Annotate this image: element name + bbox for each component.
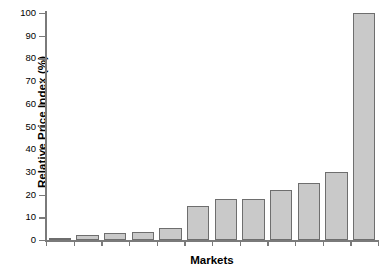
y-tick-mark (39, 13, 45, 14)
y-tick-label: 50 (6, 121, 36, 132)
y-tick-label: 70 (6, 75, 36, 86)
y-tick-mark (39, 195, 45, 196)
y-tick-mark (39, 127, 45, 128)
x-tick-mark (323, 241, 324, 246)
x-tick-mark (240, 241, 241, 246)
x-tick-mark (212, 241, 213, 246)
x-axis-title: Markets (46, 254, 378, 266)
x-tick-mark (101, 241, 102, 246)
y-tick-label: 40 (6, 143, 36, 154)
x-tick-mark (378, 241, 379, 246)
x-tick-mark (350, 241, 351, 246)
bar (215, 199, 237, 240)
y-tick-mark (39, 81, 45, 82)
x-tick-mark (157, 241, 158, 246)
bar (242, 199, 264, 240)
y-tick-label: 60 (6, 98, 36, 109)
bar (298, 183, 320, 240)
x-tick-mark (184, 241, 185, 246)
bar (132, 232, 154, 240)
y-tick-label: 30 (6, 166, 36, 177)
bar (270, 190, 292, 240)
x-tick-mark (129, 241, 130, 246)
x-tick-mark (295, 241, 296, 246)
y-tick-mark (39, 217, 45, 218)
x-tick-mark (74, 241, 75, 246)
bar (49, 238, 71, 240)
y-tick-label: 0 (6, 234, 36, 245)
x-tick-mark (267, 241, 268, 246)
y-tick-label: 80 (6, 52, 36, 63)
bar (104, 233, 126, 240)
y-tick-mark (39, 172, 45, 173)
x-tick-mark (46, 241, 47, 246)
bar-chart-figure: Relative Price Index (%) 010203040506070… (0, 0, 392, 273)
y-tick-label: 100 (6, 7, 36, 18)
bar (76, 235, 98, 240)
y-tick-mark (39, 240, 45, 241)
bar (353, 13, 375, 240)
bar (159, 228, 181, 240)
y-tick-label: 20 (6, 189, 36, 200)
bar (325, 172, 347, 240)
y-tick-mark (39, 36, 45, 37)
bar (187, 206, 209, 240)
y-tick-mark (39, 58, 45, 59)
y-tick-label: 10 (6, 211, 36, 222)
plot-area (46, 13, 378, 240)
y-tick-mark (39, 149, 45, 150)
y-tick-mark (39, 104, 45, 105)
y-tick-label: 90 (6, 30, 36, 41)
